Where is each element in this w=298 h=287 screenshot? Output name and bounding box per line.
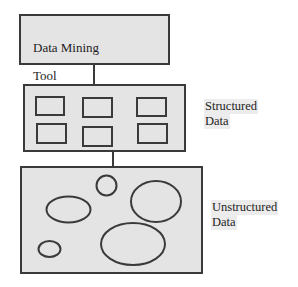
unstructured-blob-ellipse [131,181,181,222]
structured-data-label-line2: Data [204,114,230,129]
structured-data-label: Structured Data [204,99,258,129]
structured-record-rect [37,124,66,143]
unstructured-blob-ellipse [39,241,61,257]
unstructured-blob-ellipse [47,197,91,223]
structured-record-rect [83,98,112,117]
structured-record-rect [137,98,166,116]
unstructured-data-label: Unstructured Data [211,200,278,230]
unstructured-blob-ellipse [97,176,117,196]
structured-record-rect [83,127,112,146]
structured-records [36,97,167,146]
unstructured-blob-ellipse [101,223,165,265]
unstructured-blobs [39,176,182,266]
diagram-shapes [0,0,298,287]
unstructured-data-label-line2: Data [211,215,237,230]
structured-record-rect [36,97,64,115]
unstructured-data-label-line1: Unstructured [211,200,278,215]
structured-data-label-line1: Structured [204,99,258,114]
structured-record-rect [138,124,167,143]
